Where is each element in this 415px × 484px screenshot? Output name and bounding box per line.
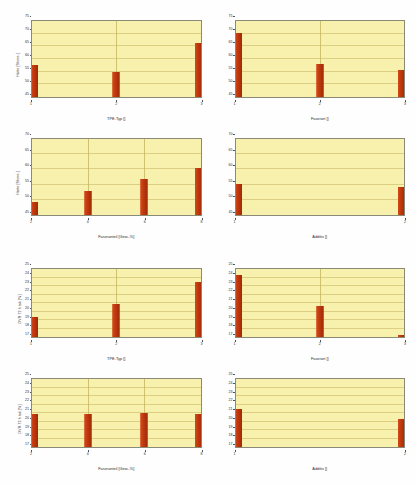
gridline-horizontal — [236, 168, 405, 169]
y-axis-tick-label: 45 — [25, 210, 29, 214]
bar — [85, 191, 92, 215]
x-axis-tick-label: 2 — [115, 102, 117, 106]
chart-panel-haerte-faserart: 45505560657075123Faserart [] — [208, 6, 412, 124]
gridline-horizontal — [32, 153, 201, 154]
x-axis-tick-label: 8 — [201, 220, 203, 224]
y-axis-tick-label: 17 — [25, 442, 29, 446]
bar — [235, 184, 242, 215]
bar — [235, 275, 242, 337]
x-axis-tick-label: 3 — [404, 102, 406, 106]
chart-panel-haerte-additiv: 45505560657012Additiv [] — [208, 124, 412, 242]
x-axis-title: Faseranteil [Gew.-%] — [31, 466, 202, 471]
bar — [398, 187, 405, 215]
x-axis-tick-label: 2 — [404, 452, 406, 456]
bar — [85, 414, 92, 447]
y-axis-tick-label: 55 — [25, 66, 29, 70]
y-axis-tick-label: 65 — [229, 40, 233, 44]
x-axis-tick-label: 6 — [144, 220, 146, 224]
y-axis-tick-label: 17 — [229, 442, 233, 446]
bar — [141, 179, 148, 215]
x-axis-title: Faserart [] — [235, 116, 406, 121]
y-axis-tick-label: 70 — [25, 132, 29, 136]
y-axis-ticks: 171819202122232425 — [16, 268, 30, 338]
x-axis-title: TPE-Typ [] — [31, 356, 202, 361]
bar — [195, 414, 202, 447]
bar — [31, 202, 38, 215]
y-axis-tick-label: 25 — [25, 372, 29, 376]
x-axis-ticks: 12 — [235, 219, 406, 226]
x-axis-tick-label: 3 — [404, 342, 406, 346]
plot-area — [31, 378, 202, 448]
gridline-horizontal — [32, 387, 201, 388]
x-axis-tick-label: 6 — [144, 452, 146, 456]
y-axis-tick-label: 18 — [25, 433, 29, 437]
y-axis-tick-label: 55 — [25, 179, 29, 183]
y-axis-tick-label: 23 — [229, 280, 233, 284]
y-axis-tick-label: 21 — [229, 407, 233, 411]
x-axis-ticks: 123 — [31, 341, 202, 348]
y-axis-tick-label: 22 — [229, 288, 233, 292]
x-axis-tick-label: 2 — [30, 452, 32, 456]
gridline-horizontal — [32, 395, 201, 396]
chart-panel-haerte-tpe-typ: Härte [Shore-]45505560657075123TPE-Typ [… — [4, 6, 208, 124]
y-axis-tick-label: 75 — [25, 14, 29, 18]
y-axis-tick-label: 20 — [229, 306, 233, 310]
chart-panel-inner: 45505560657075123Faserart [] — [208, 6, 412, 124]
x-axis-tick-label: 1 — [234, 102, 236, 106]
x-axis-tick-label: 1 — [234, 220, 236, 224]
bar — [113, 72, 120, 97]
chart-panel-dvr-faseranteil: DVR 72 h tsk [%]1718192021222324252468Fa… — [4, 364, 208, 474]
y-axis-tick-label: 19 — [25, 315, 29, 319]
x-axis-title: Faseranteil [Gew.-%] — [31, 234, 202, 239]
y-axis-ticks: 455055606570 — [220, 138, 234, 216]
y-axis-tick-label: 23 — [229, 390, 233, 394]
chart-panel-haerte-faseranteil: Härte [Shore-]4550556065702468Faserantei… — [4, 124, 208, 242]
gridline-horizontal — [236, 153, 405, 154]
y-axis-tick-label: 18 — [229, 323, 233, 327]
y-axis-ticks: 171819202122232425 — [220, 378, 234, 448]
gridline-horizontal — [236, 395, 405, 396]
y-axis-tick-label: 55 — [229, 179, 233, 183]
y-axis-tick-label: 60 — [229, 53, 233, 57]
plot-area — [235, 20, 406, 98]
y-axis-tick-label: 65 — [25, 148, 29, 152]
y-axis-tick-label: 60 — [25, 53, 29, 57]
gridline-horizontal — [32, 168, 201, 169]
x-axis-tick-label: 2 — [404, 220, 406, 224]
gridline-horizontal — [236, 438, 405, 439]
y-axis-tick-label: 24 — [229, 381, 233, 385]
chart-panel-dvr-additiv: 17181920212223242512Additiv [] — [208, 364, 412, 474]
gridline-horizontal — [236, 421, 405, 422]
y-axis-tick-label: 18 — [25, 323, 29, 327]
bar — [31, 414, 38, 447]
chart-panel-inner: DVR 72 h tsk [%]1718192021222324252468Fa… — [4, 364, 208, 474]
y-axis-tick-label: 45 — [229, 92, 233, 96]
x-axis-tick-label: 2 — [30, 220, 32, 224]
y-axis-tick-label: 19 — [25, 425, 29, 429]
chart-panel-inner: Härte [Shore-]45505560657075123TPE-Typ [… — [4, 6, 208, 124]
y-axis-tick-label: 65 — [25, 40, 29, 44]
chart-grid: Härte [Shore-]45505560657075123TPE-Typ [… — [0, 0, 415, 484]
bar — [235, 33, 242, 97]
gridline-horizontal — [32, 199, 201, 200]
y-axis-tick-label: 70 — [229, 27, 233, 31]
y-axis-tick-label: 75 — [229, 14, 233, 18]
gridline-horizontal — [32, 412, 201, 413]
y-axis-tick-label: 60 — [229, 163, 233, 167]
bar — [31, 65, 38, 97]
gridline-horizontal — [236, 184, 405, 185]
plot-area — [235, 138, 406, 216]
y-axis-tick-label: 21 — [25, 407, 29, 411]
y-axis-tick-label: 19 — [229, 425, 233, 429]
x-axis-tick-label: 4 — [87, 220, 89, 224]
x-axis-tick-label: 2 — [319, 102, 321, 106]
chart-panel-inner: 17181920212223242512Additiv [] — [208, 364, 412, 474]
plot-area — [235, 378, 406, 448]
x-axis-title: Additiv [] — [235, 234, 406, 239]
y-axis-tick-label: 19 — [229, 315, 233, 319]
y-axis-tick-label: 55 — [229, 66, 233, 70]
y-axis-tick-label: 50 — [229, 194, 233, 198]
gridline-horizontal — [236, 412, 405, 413]
chart-panel-dvr-tpe-typ: DVR 72 h tsk [%]171819202122232425123TPE… — [4, 254, 208, 364]
x-axis-tick-label: 4 — [87, 452, 89, 456]
